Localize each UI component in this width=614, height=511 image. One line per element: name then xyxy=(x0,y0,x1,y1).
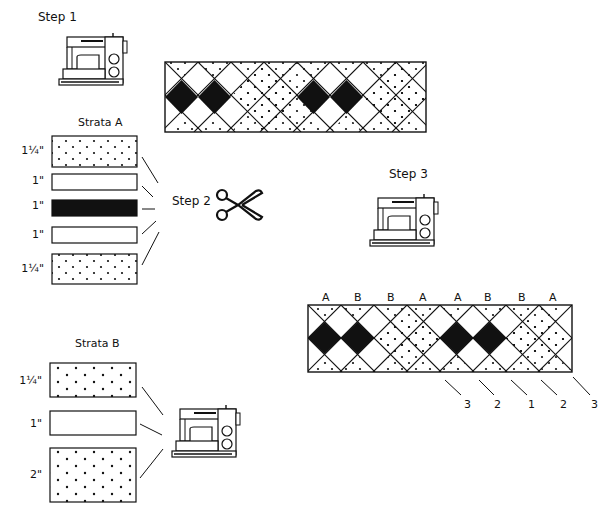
strata-a-strip-3 xyxy=(52,200,137,216)
strata-a xyxy=(52,136,159,284)
strata-b xyxy=(50,363,163,502)
strata-b-strip-3 xyxy=(50,448,136,502)
finished-border-band-top xyxy=(128,62,466,132)
scissors-icon xyxy=(217,190,262,220)
strata-a-strip-4 xyxy=(52,227,137,243)
sewing-machine-icon xyxy=(370,194,438,246)
strata-a-strip-5 xyxy=(52,254,137,284)
strata-b-strip-1 xyxy=(50,363,136,397)
strata-b-strip-2 xyxy=(50,411,136,435)
strata-a-strip-2 xyxy=(52,174,137,190)
strata-a-strip-1 xyxy=(52,136,137,167)
diagram-canvas xyxy=(0,0,614,511)
finished-border-band-segmented xyxy=(274,305,606,395)
sewing-machine-icon xyxy=(172,405,240,457)
sewing-machine-icon xyxy=(59,33,127,85)
